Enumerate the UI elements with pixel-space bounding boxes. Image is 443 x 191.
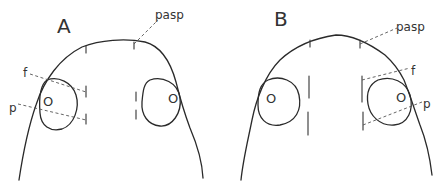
panel-a-label: A xyxy=(57,14,71,38)
panel-b-label: B xyxy=(274,7,288,31)
panel-b-pasp-leader xyxy=(360,28,397,44)
panel-a-f-label: f xyxy=(23,66,28,80)
panel-b-head-outline xyxy=(241,35,432,180)
panel-a: A O O pasp f p xyxy=(9,8,203,180)
panel-b-pasp-label: pasp xyxy=(396,20,425,34)
panel-a-pasp-label: pasp xyxy=(155,8,184,22)
panel-a-f-leader xyxy=(30,74,86,92)
panel-b-left-eye xyxy=(258,78,300,125)
panel-b-right-nostril: O xyxy=(396,90,406,105)
panel-b: B O O pasp f p xyxy=(241,7,432,180)
panel-a-left-nostril: O xyxy=(43,94,53,109)
panel-b-left-nostril: O xyxy=(266,91,276,106)
figure: A O O pasp f p B O xyxy=(0,0,443,191)
panel-a-right-nostril: O xyxy=(168,91,178,106)
panel-a-head-outline xyxy=(19,40,203,180)
diagram-canvas: A O O pasp f p B O xyxy=(0,0,443,191)
panel-b-f-label: f xyxy=(411,64,416,78)
panel-b-p-label: p xyxy=(423,97,431,111)
panel-a-p-label: p xyxy=(9,101,17,115)
